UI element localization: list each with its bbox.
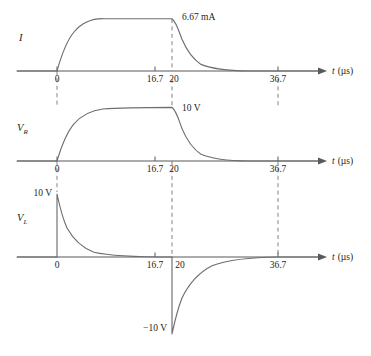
- x-axis-title-current: t(µs): [332, 66, 353, 77]
- curve-inductor-decay: [57, 194, 172, 257]
- curve-resistor-voltage: [17, 107, 318, 161]
- x-axis-title-resistor-voltage: t(µs): [332, 156, 353, 167]
- signal-label-inductor-voltage: VL: [17, 212, 27, 226]
- tick-label-20-inductor-voltage: 20: [175, 260, 185, 270]
- x-axis-arrow-resistor-voltage: [318, 158, 327, 165]
- tick-label-20-current: 20: [169, 74, 179, 84]
- panel-resistor-voltage: VR 0 16.7 20 36.7 t(µs) 10 V: [17, 103, 353, 174]
- panel-inductor-voltage: VL 0 16.7 20 36.7 t(µs) 10 V −10 V: [17, 188, 353, 334]
- tick-label-16-7-resistor-voltage: 16.7: [147, 164, 164, 174]
- dashed-guide-lines: [57, 19, 278, 257]
- tick-label-20-resistor-voltage: 20: [169, 164, 179, 174]
- tick-label-36-7-current: 36.7: [270, 74, 287, 84]
- negative-label-inductor-voltage: −10 V: [143, 323, 167, 333]
- figure-container: I 0 16.7 20 36.7 t(µs) 6.67 mA VR 0 16.7…: [0, 0, 371, 356]
- tick-label-16-7-current: 16.7: [147, 74, 164, 84]
- x-axis-arrow-current: [318, 68, 327, 75]
- tick-label-36-7-resistor-voltage: 36.7: [270, 164, 287, 174]
- curve-inductor-recovery: [172, 257, 318, 334]
- peak-label-current: 6.67 mA: [182, 12, 215, 22]
- signal-label-current: I: [18, 32, 23, 43]
- waveform-figure: I 0 16.7 20 36.7 t(µs) 6.67 mA VR 0 16.7…: [0, 0, 371, 356]
- tick-label-36-7-inductor-voltage: 36.7: [270, 260, 287, 270]
- tick-label-0-inductor-voltage: 0: [55, 260, 60, 270]
- tick-label-16-7-inductor-voltage: 16.7: [147, 260, 164, 270]
- initial-label-inductor-voltage: 10 V: [33, 188, 52, 198]
- curve-current: [17, 19, 318, 71]
- peak-label-resistor-voltage: 10 V: [182, 103, 201, 113]
- tick-label-0-resistor-voltage: 0: [55, 164, 60, 174]
- x-axis-arrow-inductor-voltage: [318, 254, 327, 261]
- tick-label-0-current: 0: [55, 74, 60, 84]
- x-axis-title-inductor-voltage: t(µs): [332, 252, 353, 263]
- panel-current: I 0 16.7 20 36.7 t(µs) 6.67 mA: [17, 12, 353, 84]
- signal-label-resistor-voltage: VR: [17, 122, 28, 136]
